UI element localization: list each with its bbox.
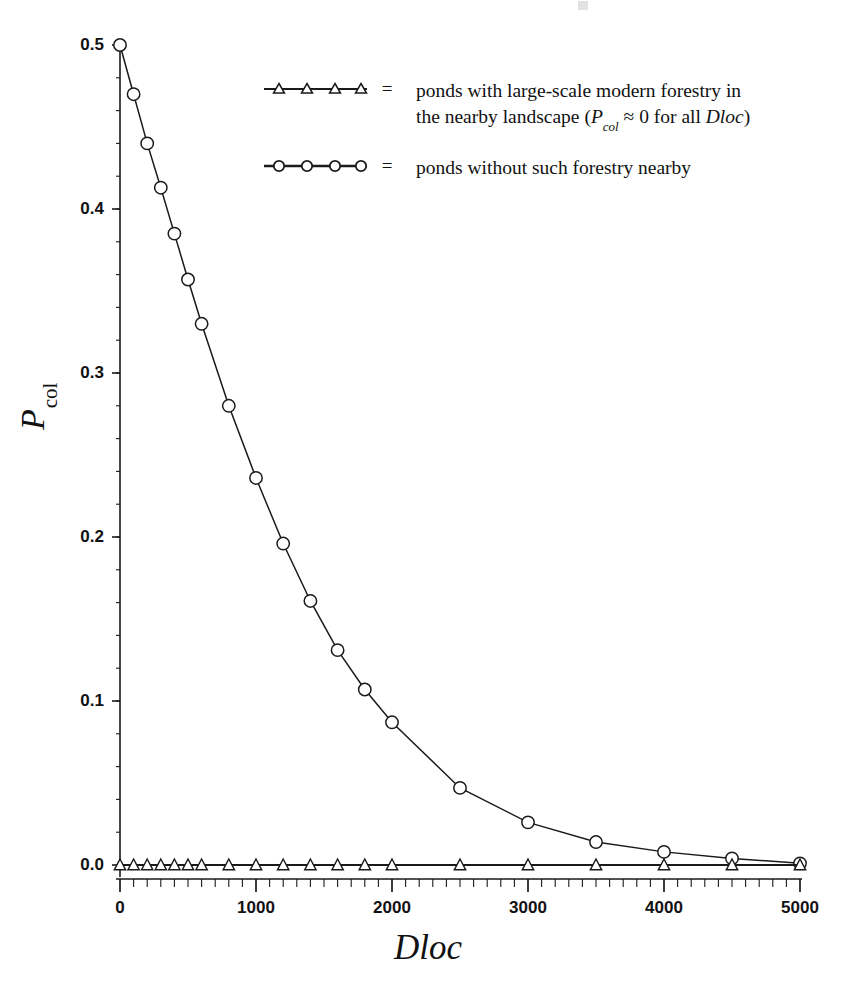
legend-row-triangle: = ponds with large-scale modern forestry… (262, 78, 822, 137)
legend-line2-var: Dloc (706, 106, 744, 127)
data-point-circle (454, 782, 466, 794)
y-axis-title-sub: col (38, 383, 62, 409)
legend-label-triangle-line2: the nearby landscape (Pcol ≈ 0 for all D… (416, 104, 822, 137)
data-point-circle (182, 273, 194, 285)
data-point-circle (223, 400, 235, 412)
data-point-circle (168, 227, 180, 239)
legend-line2-post: ) (744, 106, 751, 127)
legend-label-triangle: ponds with large-scale modern forestry i… (402, 78, 822, 137)
data-point-circle (141, 137, 153, 149)
x-tick-label: 0 (115, 898, 124, 918)
y-tick-label: 0.1 (42, 691, 104, 711)
legend-label-triangle-line1: ponds with large-scale modern forestry i… (416, 80, 741, 101)
data-point-circle (114, 39, 126, 51)
x-tick-label: 5000 (781, 898, 819, 918)
x-tick-label: 2000 (373, 898, 411, 918)
legend-equals-1: = (372, 78, 402, 100)
data-point-circle (590, 836, 602, 848)
x-axis-title: Dloc (0, 928, 856, 968)
y-tick-label: 0.0 (42, 855, 104, 875)
y-axis-title-main: P (14, 409, 51, 430)
y-tick-label: 0.4 (42, 199, 104, 219)
data-point-circle (359, 683, 371, 695)
x-tick-label: 3000 (509, 898, 547, 918)
legend-row-circle: = ponds without such forestry nearby (262, 155, 822, 181)
legend-label-circle: ponds without such forestry nearby (402, 155, 822, 181)
legend-line2-subscript: col (603, 119, 619, 134)
legend-label-circle-line1: ponds without such forestry nearby (416, 157, 691, 178)
y-axis-title: Pcol (14, 384, 58, 430)
data-point-circle (127, 88, 139, 100)
x-tick-label: 4000 (645, 898, 683, 918)
data-point-circle (658, 846, 670, 858)
y-tick-label: 0.5 (42, 35, 104, 55)
data-point-circle (277, 537, 289, 549)
data-point-circle (250, 472, 262, 484)
y-tick-label: 0.3 (42, 363, 104, 383)
data-point-circle (155, 181, 167, 193)
legend-marker-circle-icon (262, 155, 372, 177)
chart-legend: = ponds with large-scale modern forestry… (262, 78, 822, 199)
data-point-circle (195, 318, 207, 330)
data-point-circle (304, 595, 316, 607)
data-point-circle (331, 644, 343, 656)
data-point-circle (386, 716, 398, 728)
chart-page: 0.00.10.20.30.40.5010002000300040005000 … (0, 0, 856, 995)
legend-equals-2: = (372, 155, 402, 177)
data-point-circle (522, 816, 534, 828)
x-tick-label: 1000 (237, 898, 275, 918)
legend-line2-pre: the nearby landscape ( (416, 106, 591, 127)
legend-line2-mid: ≈ 0 for all (619, 106, 706, 127)
legend-line2-symbol: P (591, 106, 603, 127)
y-tick-label: 0.2 (42, 527, 104, 547)
legend-marker-triangle-icon (262, 78, 372, 100)
